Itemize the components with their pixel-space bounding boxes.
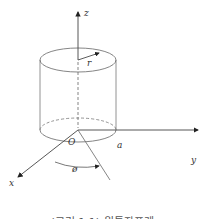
angle-ray bbox=[78, 130, 110, 180]
cylinder-bottom-front bbox=[40, 130, 116, 142]
cylindrical-coordinate-diagram: z r O a y x ø (그림 1.1) 원통좌표계 bbox=[0, 0, 204, 219]
angle-label: ø bbox=[71, 164, 78, 174]
z-axis-label: z bbox=[83, 8, 89, 18]
y-axis-label: y bbox=[190, 155, 197, 165]
origin-label: O bbox=[68, 137, 76, 147]
x-axis-label: x bbox=[9, 178, 14, 188]
point-a-label: a bbox=[117, 140, 122, 150]
radius-label: r bbox=[87, 58, 92, 68]
figure-caption: (그림 1.1) 원통좌표계 bbox=[50, 216, 153, 219]
